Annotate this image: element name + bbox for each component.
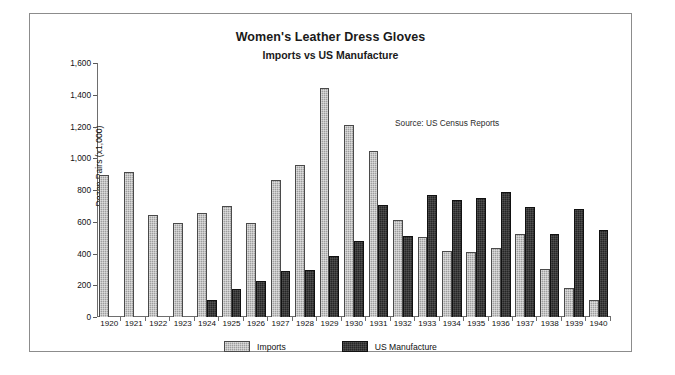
bar-imports-1938: [540, 269, 550, 317]
chart-title-block: Women's Leather Dress Gloves Imports vs …: [30, 30, 631, 61]
bar-imports-1940: [589, 300, 599, 317]
x-axis-labels: 1920192119221923192419251926192719281929…: [97, 319, 611, 328]
bar-group-1932: [391, 63, 415, 317]
bar-group-1929: [317, 63, 341, 317]
bar-group-1928: [293, 63, 317, 317]
x-tick-label-1929: 1929: [317, 319, 341, 328]
x-tick-label-1935: 1935: [464, 319, 488, 328]
bar-imports-1936: [491, 248, 501, 317]
plot-area: Dozen Pairs (x1,000) 1,6001,4001,2001,00…: [97, 63, 611, 317]
legend-item-us-manufacture: US Manufacture: [342, 341, 437, 352]
bar-imports-1922: [148, 215, 158, 317]
bar-us-manufacture-1937: [525, 207, 535, 317]
bar-imports-1920: [99, 175, 109, 317]
bar-us-manufacture-1930: [354, 241, 364, 317]
x-tick-label-1939: 1939: [562, 319, 586, 328]
x-tick-label-1922: 1922: [146, 319, 170, 328]
chart-title: Women's Leather Dress Gloves: [30, 30, 631, 44]
bar-imports-1923: [173, 223, 183, 317]
y-tick-mark: [93, 317, 97, 318]
x-tick-label-1921: 1921: [121, 319, 145, 328]
bar-group-1935: [464, 63, 488, 317]
x-tick-label-1932: 1932: [391, 319, 415, 328]
legend-swatch-imports: [224, 341, 250, 352]
legend-label-imports: Imports: [257, 342, 286, 352]
bar-us-manufacture-1926: [256, 281, 266, 318]
bar-group-1931: [366, 63, 390, 317]
x-tick-label-1923: 1923: [170, 319, 194, 328]
bar-us-manufacture-1925: [232, 289, 242, 317]
bar-us-manufacture-1928: [305, 270, 315, 317]
bar-us-manufacture-1932: [403, 236, 413, 317]
bar-imports-1925: [222, 206, 232, 317]
bar-us-manufacture-1938: [550, 234, 560, 317]
bar-us-manufacture-1924: [207, 300, 217, 317]
x-tick-label-1928: 1928: [293, 319, 317, 328]
bar-us-manufacture-1934: [452, 200, 462, 317]
bar-imports-1921: [124, 172, 134, 317]
bar-us-manufacture-1940: [599, 230, 609, 317]
bar-imports-1930: [344, 125, 354, 317]
bar-group-1934: [440, 63, 464, 317]
x-tick-label-1920: 1920: [97, 319, 121, 328]
bar-groups: [97, 63, 611, 317]
bar-us-manufacture-1931: [378, 205, 388, 317]
bar-imports-1933: [418, 237, 428, 317]
x-tick-label-1931: 1931: [366, 319, 390, 328]
x-tick-label-1937: 1937: [513, 319, 537, 328]
bar-group-1939: [562, 63, 586, 317]
bar-imports-1926: [246, 223, 256, 317]
x-tick-label-1938: 1938: [537, 319, 561, 328]
bar-group-1924: [195, 63, 219, 317]
bar-us-manufacture-1936: [501, 192, 511, 317]
chart-subtitle: Imports vs US Manufacture: [30, 49, 631, 61]
bar-group-1926: [244, 63, 268, 317]
bar-imports-1934: [442, 251, 452, 317]
bar-group-1940: [586, 63, 610, 317]
bar-imports-1931: [369, 151, 379, 317]
x-tick-label-1925: 1925: [219, 319, 243, 328]
x-tick-label-1924: 1924: [195, 319, 219, 328]
bar-imports-1932: [393, 220, 403, 317]
bar-imports-1937: [515, 234, 525, 317]
bar-group-1922: [146, 63, 170, 317]
bar-imports-1928: [295, 165, 305, 317]
bar-us-manufacture-1939: [574, 209, 584, 317]
bar-us-manufacture-1929: [329, 256, 339, 317]
bar-us-manufacture-1927: [281, 271, 291, 317]
chart-legend: Imports US Manufacture: [30, 341, 631, 352]
chart-frame: Women's Leather Dress Gloves Imports vs …: [29, 13, 632, 352]
bar-group-1921: [121, 63, 145, 317]
bar-us-manufacture-1935: [476, 198, 486, 317]
x-tick-label-1933: 1933: [415, 319, 439, 328]
bar-group-1927: [268, 63, 292, 317]
x-tick-label-1936: 1936: [489, 319, 513, 328]
x-tick-label-1927: 1927: [268, 319, 292, 328]
legend-swatch-us-manufacture: [342, 341, 368, 352]
legend-label-us-manufacture: US Manufacture: [375, 342, 437, 352]
x-tick-label-1940: 1940: [586, 319, 610, 328]
x-tick-label-1934: 1934: [440, 319, 464, 328]
bar-us-manufacture-1933: [427, 195, 437, 317]
bar-imports-1935: [466, 252, 476, 317]
bar-group-1933: [415, 63, 439, 317]
bar-group-1920: [97, 63, 121, 317]
bar-group-1937: [513, 63, 537, 317]
bar-group-1930: [342, 63, 366, 317]
bar-group-1936: [489, 63, 513, 317]
x-tick-label-1930: 1930: [342, 319, 366, 328]
bar-group-1923: [170, 63, 194, 317]
bar-imports-1929: [320, 88, 330, 317]
legend-item-imports: Imports: [224, 341, 286, 352]
bar-group-1925: [219, 63, 243, 317]
bar-imports-1939: [564, 288, 574, 317]
bar-imports-1924: [197, 213, 207, 317]
x-tick-label-1926: 1926: [244, 319, 268, 328]
bar-imports-1927: [271, 180, 281, 317]
bar-group-1938: [537, 63, 561, 317]
